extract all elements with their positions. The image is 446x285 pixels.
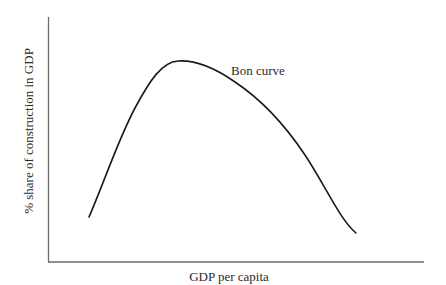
- x-axis-label: GDP per capita: [189, 269, 269, 284]
- bon-curve-line: [89, 61, 356, 233]
- y-axis-label: % share of construction in GDP: [21, 48, 36, 214]
- bon-curve-chart: Bon curve GDP per capita % share of cons…: [0, 0, 446, 285]
- curve-label: Bon curve: [231, 63, 285, 78]
